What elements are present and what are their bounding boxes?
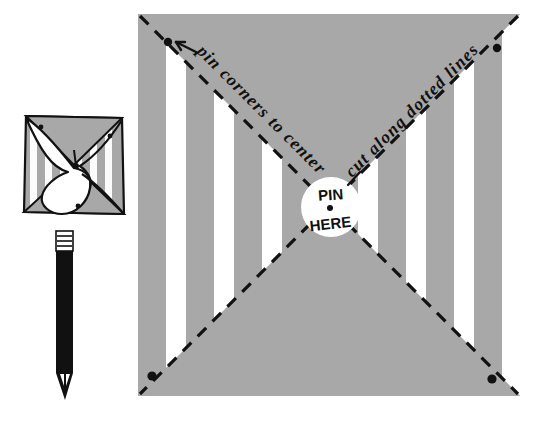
pin-dot-bottom-right	[487, 374, 496, 383]
pin-here-circle: PIN HERE	[301, 177, 361, 237]
assembled-pinwheel	[24, 116, 124, 214]
pencil-tip	[56, 373, 73, 400]
pencil	[56, 231, 73, 400]
pinwheel-template-illustration: PIN HERE pin corners to center cut along…	[0, 0, 536, 427]
pin-here-label-line1: PIN	[318, 185, 344, 204]
pin-dot-top-left	[164, 38, 172, 46]
pencil-barrel	[56, 251, 73, 373]
figure-canvas: PIN HERE pin corners to center cut along…	[0, 0, 536, 427]
pin-dot-bottom-left	[147, 371, 156, 380]
pin-dot-top-right	[493, 44, 501, 52]
pinwheel-corner-dot-tr	[108, 134, 113, 139]
pinwheel-corner-dot-b	[76, 204, 81, 209]
center-pin-dot	[327, 205, 333, 211]
pinwheel-corner-dot-tl	[39, 125, 44, 130]
